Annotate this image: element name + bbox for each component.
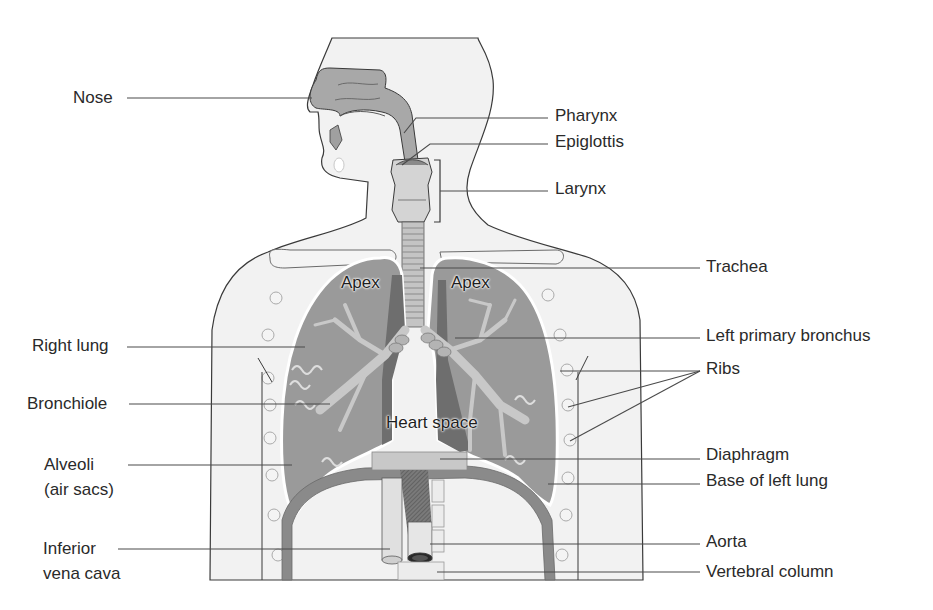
label-pharynx: Pharynx [555,106,617,126]
label-nose: Nose [73,88,113,108]
label-left-primary-bronchus: Left primary bronchus [706,326,870,346]
label-aorta: Aorta [706,532,747,552]
label-vertebral-column: Vertebral column [706,562,834,582]
label-ribs: Ribs [706,359,740,379]
label-base-of-left-lung: Base of left lung [706,471,828,491]
vena-cava-shape [382,478,402,560]
label-inferior-vena-cava-sub: vena cava [43,564,121,584]
label-alveoli-sub: (air sacs) [44,480,114,500]
label-epiglottis: Epiglottis [555,132,624,152]
label-right-lung: Right lung [32,336,109,356]
larynx-shape [391,158,432,222]
label-larynx: Larynx [555,179,606,199]
label-alveoli: Alveoli [44,455,94,475]
respiratory-diagram: Nose Right lung Bronchiole Alveoli (air … [0,0,933,610]
label-diaphragm: Diaphragm [706,445,789,465]
label-trachea: Trachea [706,257,768,277]
label-heart-space: Heart space [386,413,478,433]
label-inferior-vena-cava: Inferior [43,539,96,559]
label-apex-left: Apex [451,273,490,293]
anatomy-illustration [0,0,933,610]
label-apex-right: Apex [341,273,380,293]
label-bronchiole: Bronchiole [27,394,107,414]
